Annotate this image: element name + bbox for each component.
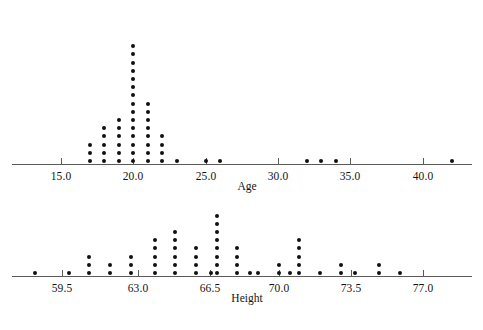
data-dot (131, 143, 135, 147)
data-dot (173, 255, 177, 259)
data-dot (87, 263, 91, 267)
data-dot (108, 271, 112, 275)
height-axis-line (12, 276, 472, 277)
data-dot (88, 151, 92, 155)
data-dot (131, 52, 135, 56)
data-dot (131, 118, 135, 122)
data-dot (160, 151, 164, 155)
data-dot (209, 271, 213, 275)
data-dot (146, 102, 150, 106)
data-dot (175, 159, 179, 163)
data-dot (339, 271, 343, 275)
age-panel-tick-0 (61, 158, 62, 164)
age-axis-title: Age (187, 180, 307, 193)
data-dot (102, 159, 106, 163)
data-dot (117, 159, 121, 163)
data-dot (297, 255, 301, 259)
age-panel-tick-label-0: 15.0 (36, 170, 86, 182)
height-panel-tick-5 (423, 270, 424, 276)
age-dotplot-panel: 15.020.025.030.035.040.0 Age (0, 0, 483, 200)
data-dot (131, 159, 135, 163)
data-dot (339, 263, 343, 267)
data-dot (173, 271, 177, 275)
data-dot (305, 159, 309, 163)
data-dot (131, 151, 135, 155)
height-axis-title: Height (187, 292, 307, 305)
height-panel-tick-0 (62, 270, 63, 276)
data-dot (160, 134, 164, 138)
data-dot (194, 246, 198, 250)
data-dot (88, 143, 92, 147)
data-dot (277, 271, 281, 275)
data-dot (117, 134, 121, 138)
data-dot (215, 263, 219, 267)
data-dot (353, 271, 357, 275)
data-dot (129, 255, 133, 259)
data-dot (215, 222, 219, 226)
data-dot (131, 85, 135, 89)
data-dot (398, 271, 402, 275)
height-panel-tick-4 (351, 270, 352, 276)
data-dot (297, 263, 301, 267)
data-dot (33, 271, 37, 275)
data-dot (318, 271, 322, 275)
data-dot (131, 93, 135, 97)
age-panel-tick-3 (278, 158, 279, 164)
height-dotplot-panel: 59.563.066.570.073.577.0 Height (0, 200, 483, 330)
data-dot (146, 126, 150, 130)
data-dot (131, 102, 135, 106)
data-dot (117, 143, 121, 147)
data-dot (215, 238, 219, 242)
age-axis-line (12, 164, 472, 165)
data-dot (87, 271, 91, 275)
data-dot (288, 271, 292, 275)
data-dot (131, 126, 135, 130)
data-dot (153, 255, 157, 259)
height-panel-tick-1 (138, 270, 139, 276)
data-dot (108, 263, 112, 267)
data-dot (146, 159, 150, 163)
data-dot (146, 134, 150, 138)
data-dot (215, 230, 219, 234)
height-panel-tick-label-5: 77.0 (398, 282, 448, 294)
data-dot (194, 263, 198, 267)
data-dot (215, 246, 219, 250)
data-dot (319, 159, 323, 163)
data-dot (146, 110, 150, 114)
data-dot (173, 238, 177, 242)
data-dot (173, 246, 177, 250)
data-dot (88, 159, 92, 163)
data-dot (67, 271, 71, 275)
data-dot (450, 159, 454, 163)
data-dot (102, 151, 106, 155)
data-dot (117, 126, 121, 130)
data-dot (102, 134, 106, 138)
data-dot (131, 110, 135, 114)
data-dot (297, 271, 301, 275)
data-dot (235, 263, 239, 267)
data-dot (129, 263, 133, 267)
dotplot-figure: 15.020.025.030.035.040.0 Age 59.563.066.… (0, 0, 483, 330)
data-dot (377, 263, 381, 267)
data-dot (160, 143, 164, 147)
height-panel-tick-label-0: 59.5 (37, 282, 87, 294)
data-dot (194, 271, 198, 275)
data-dot (102, 126, 106, 130)
data-dot (235, 255, 239, 259)
data-dot (146, 151, 150, 155)
data-dot (248, 271, 252, 275)
data-dot (117, 151, 121, 155)
data-dot (297, 238, 301, 242)
age-panel-tick-4 (350, 158, 351, 164)
data-dot (160, 159, 164, 163)
data-dot (153, 271, 157, 275)
data-dot (146, 143, 150, 147)
data-dot (235, 271, 239, 275)
data-dot (153, 246, 157, 250)
data-dot (334, 159, 338, 163)
age-panel-tick-5 (423, 158, 424, 164)
data-dot (102, 143, 106, 147)
data-dot (131, 77, 135, 81)
data-dot (277, 263, 281, 267)
data-dot (204, 159, 208, 163)
